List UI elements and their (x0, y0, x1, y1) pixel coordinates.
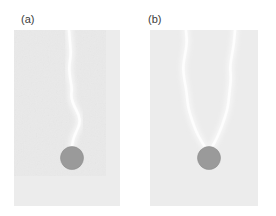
panel-b-inclusion (198, 147, 221, 170)
panel-a-specimen (14, 30, 120, 206)
left-crack (183, 30, 205, 147)
panel-a-texture (14, 30, 106, 176)
panel-b-label: (b) (148, 14, 161, 25)
panel-a-inclusion (61, 147, 84, 170)
right-crack-glow (212, 30, 235, 147)
panel-b-graphic (150, 30, 258, 206)
panel-a-graphic (14, 30, 120, 206)
panel-b-specimen (150, 30, 258, 206)
figure-container: (a) (b) (0, 0, 276, 216)
panel-a-label: (a) (21, 14, 34, 25)
panel-b-crack-group (183, 30, 235, 147)
